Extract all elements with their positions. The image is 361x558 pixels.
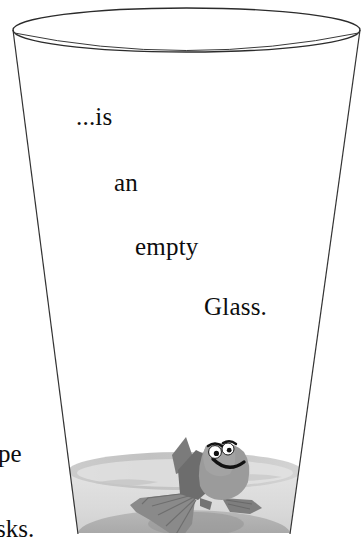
- clipped-text-fragment-sks: sks.: [0, 516, 34, 541]
- fish-eye-left: [209, 446, 222, 459]
- clipped-text-fragment-pe: pe: [0, 441, 22, 466]
- illustration-canvas: ...is an empty Glass. pe sks.: [0, 0, 361, 558]
- caption-word-an: an: [114, 170, 138, 195]
- glass-with-fish-illustration: [0, 0, 361, 558]
- fish-pupil-left: [214, 451, 219, 456]
- caption-word-empty: empty: [135, 234, 199, 259]
- fish-pupil-right: [227, 448, 232, 453]
- fish-eye-right: [222, 443, 234, 455]
- caption-word-glass: Glass.: [204, 294, 267, 319]
- caption-word-is: ...is: [76, 104, 112, 129]
